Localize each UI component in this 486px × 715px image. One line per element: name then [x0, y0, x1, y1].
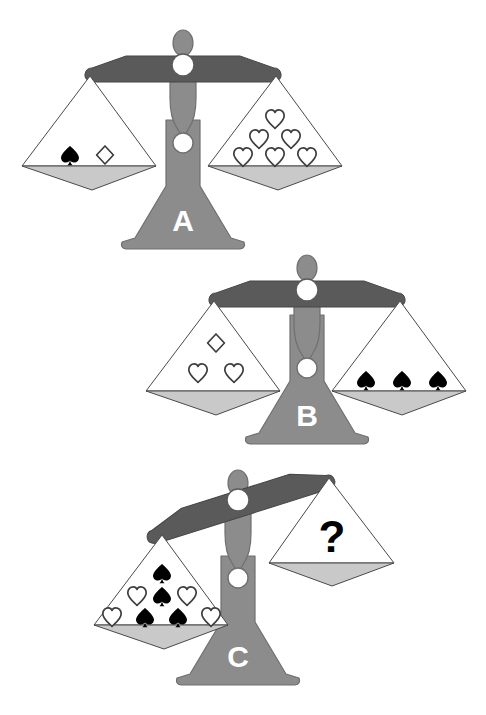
balance-puzzle-illustration: A — [0, 0, 486, 715]
scale-c: C — [94, 462, 394, 685]
scale-a-right-pan — [208, 76, 342, 190]
scale-a-right-dish — [208, 166, 342, 190]
scale-a-letter: A — [172, 204, 194, 237]
puzzle-canvas: A — [0, 0, 486, 715]
scale-b: B — [146, 255, 466, 444]
scale-c-left-pan — [94, 535, 228, 649]
question-mark-icon: ? — [319, 512, 346, 561]
scale-b-left-dish — [146, 391, 280, 415]
scale-c-top-pivot — [227, 489, 249, 511]
scale-b-letter: B — [296, 399, 318, 432]
scale-c-right-dish — [269, 563, 394, 586]
scale-b-left-pan — [146, 301, 280, 415]
scale-c-letter: C — [227, 640, 249, 673]
scale-b-right-pan — [332, 301, 466, 415]
scale-a-left-pan — [22, 76, 156, 190]
scale-b-beam — [209, 279, 405, 307]
scale-b-lower-pivot — [297, 358, 317, 378]
scale-b-right-dish — [332, 391, 466, 415]
scale-a-left-dish — [22, 166, 156, 190]
scale-a-top-pivot — [172, 54, 194, 76]
scale-a: A — [22, 30, 342, 249]
scale-a-beam — [85, 54, 281, 82]
scale-a-lower-pivot — [173, 133, 193, 153]
scale-c-lower-pivot — [228, 568, 248, 588]
scale-b-top-pivot — [296, 279, 318, 301]
